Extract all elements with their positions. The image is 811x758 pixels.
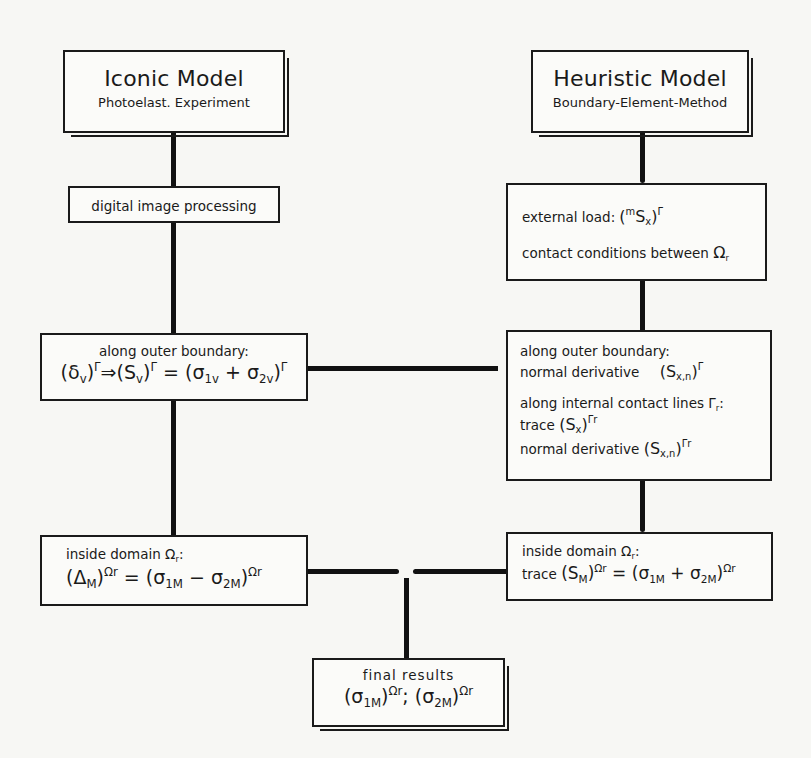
heuristic-model-subtitle: Boundary-Element-Method — [533, 95, 747, 110]
inside-domain-right-formula: trace (SM)Ωr = (σ1M + σ2M)Ωr — [522, 562, 771, 585]
normal-derivative-outer-line: normal derivative (Sx,n)Γ — [520, 360, 770, 383]
iconic-model-box: Iconic Model Photoelast. Experiment — [63, 50, 285, 133]
connector-external-load-to-outer-boundary-right — [640, 280, 645, 331]
connector-inside-domain-left-to-junction — [308, 569, 399, 574]
outer-boundary-left-label: along outer boundary: — [42, 342, 306, 360]
omega-symbol: Ω — [713, 243, 725, 262]
normal-derivative-internal-line: normal derivative (Sx,n)Γr — [520, 437, 770, 460]
inside-domain-right-label: inside domain Ωr: — [522, 542, 771, 562]
outer-boundary-right-box: along outer boundary: normal derivative … — [506, 330, 772, 481]
connector-junction-to-final-results — [404, 578, 409, 659]
image-processing-box: digital image processing — [68, 186, 280, 223]
inside-domain-right-box: inside domain Ωr: trace (SM)Ωr = (σ1M + … — [506, 532, 773, 601]
internal-contact-lines-line: along internal contact lines Γr: — [520, 394, 770, 414]
final-results-label: final results — [314, 666, 503, 684]
connector-outer-boundary-left-to-right — [308, 366, 498, 371]
connector-iconic-to-image-processing — [171, 133, 176, 188]
inside-domain-left-box: inside domain Ωr: (ΔM)Ωr = (σ1M − σ2M)Ωr — [40, 535, 308, 606]
final-results-box: final results (σ1M)Ωr; (σ2M)Ωr — [312, 658, 505, 727]
inside-domain-left-formula: (ΔM)Ωr = (σ1M − σ2M)Ωr — [66, 565, 306, 591]
image-processing-label: digital image processing — [91, 198, 256, 214]
outer-boundary-right-line1: along outer boundary: — [520, 342, 770, 360]
outer-boundary-left-box: along outer boundary: (δv)Γ⇒(Sv)Γ = (σ1v… — [40, 333, 308, 401]
connector-heuristic-to-external-load — [640, 133, 645, 183]
heuristic-model-title: Heuristic Model — [533, 66, 747, 91]
contact-conditions-line: contact conditions between Ωr — [522, 242, 765, 264]
external-load-box: external load: (mSx)Γ contact conditions… — [506, 183, 767, 281]
connector-outer-boundary-right-to-inside-domain-right — [640, 480, 645, 532]
connector-inside-domain-right-to-junction — [413, 569, 507, 574]
iconic-model-subtitle: Photoelast. Experiment — [65, 95, 283, 110]
final-results-formula: (σ1M)Ωr; (σ2M)Ωr — [314, 684, 503, 710]
heuristic-model-box: Heuristic Model Boundary-Element-Method — [531, 50, 749, 133]
trace-line: trace (Sx)Γr — [520, 413, 770, 436]
connector-outer-boundary-to-inside-domain-left — [171, 400, 176, 536]
connector-image-processing-to-outer-boundary — [171, 222, 176, 334]
inside-domain-left-label: inside domain Ωr: — [66, 545, 306, 565]
external-load-line: external load: (mSx)Γ — [522, 205, 765, 228]
outer-boundary-left-formula: (δv)Γ⇒(Sv)Γ = (σ1v + σ2v)Γ — [42, 360, 306, 386]
iconic-model-title: Iconic Model — [65, 66, 283, 91]
external-load-formula: (mSx)Γ — [619, 205, 663, 228]
